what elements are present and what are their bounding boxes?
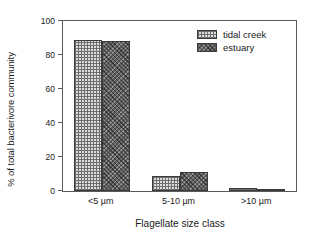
x-tick-label-2: 5-10 µm [162, 196, 195, 206]
legend-label-estuary: estuary [223, 42, 254, 53]
bar-tidal-creek-group-1 [74, 40, 102, 191]
legend-swatch-estuary [197, 43, 217, 52]
y-tick-label-80: 80 [46, 50, 55, 60]
bar-tidal-creek-group-2 [152, 176, 180, 191]
chart-figure: % of total bacterivore community 0204060… [0, 0, 312, 239]
y-tick-label-40: 40 [46, 118, 55, 128]
bar-tidal-creek-group-3 [229, 188, 257, 191]
y-tick-label-0: 0 [50, 186, 55, 196]
y-tick-label-60: 60 [46, 84, 55, 94]
chart-legend: tidal creekestuary [197, 29, 266, 53]
bar-estuary-group-3 [257, 189, 285, 191]
y-tick-label-100: 100 [41, 16, 55, 26]
y-axis-title: % of total bacterivore community [0, 0, 20, 239]
bar-estuary-group-2 [180, 172, 208, 191]
y-tick-label-20: 20 [46, 152, 55, 162]
x-axis-title: Flagellate size class [62, 218, 298, 229]
plot-area: 020406080100 tidal creekestuary [62, 20, 297, 192]
legend-item-estuary: estuary [197, 42, 266, 53]
x-tick-label-1: <5 µm [88, 196, 113, 206]
legend-swatch-tidal-creek [197, 30, 217, 39]
y-tick-60: 60 [58, 88, 63, 89]
legend-item-tidal-creek: tidal creek [197, 29, 266, 40]
x-tick-label-3: >10 µm [241, 196, 271, 206]
y-tick-0: 0 [58, 190, 63, 191]
y-tick-100: 100 [58, 20, 63, 21]
y-tick-40: 40 [58, 122, 63, 123]
y-tick-80: 80 [58, 54, 63, 55]
y-tick-20: 20 [58, 156, 63, 157]
legend-label-tidal-creek: tidal creek [223, 29, 266, 40]
bar-estuary-group-1 [102, 41, 130, 191]
